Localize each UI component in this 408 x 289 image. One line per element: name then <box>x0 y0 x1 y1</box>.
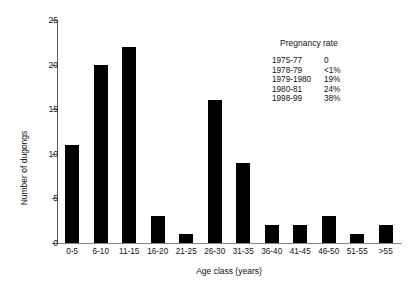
legend-row-years: 1978-79 <box>272 66 324 76</box>
legend-row: 1975-770 <box>272 56 402 66</box>
y-axis-tick-label: 25 <box>12 16 58 25</box>
y-axis-title-holder: Number of dugongs <box>10 60 24 180</box>
dugong-age-class-bar-chart: 0510152025 0-56-1011-1516-2021-2526-3031… <box>0 0 408 289</box>
bar <box>265 225 279 243</box>
x-axis-tick-label: >55 <box>369 247 403 257</box>
legend-row: 1980-8124% <box>272 85 402 95</box>
bar <box>94 65 108 243</box>
legend-row: 1979-198019% <box>272 75 402 85</box>
legend-row-group: 1975-7701978-79<1%1979-198019%1980-8124%… <box>272 56 402 104</box>
bar <box>208 100 222 243</box>
legend-row-rate: 0 <box>324 56 402 66</box>
bar <box>122 47 136 243</box>
x-axis-title: Age class (years) <box>58 266 400 276</box>
legend-title: Pregnancy rate <box>280 38 402 49</box>
bar <box>293 225 307 243</box>
x-axis-tick-label-group: 0-56-1011-1516-2021-2526-3031-3536-4041-… <box>58 247 400 261</box>
bar <box>322 216 336 243</box>
bar <box>151 216 165 243</box>
legend-row-rate: 24% <box>324 85 402 95</box>
legend-row-years: 1998-99 <box>272 94 324 104</box>
legend-row: 1998-9938% <box>272 94 402 104</box>
bar <box>65 145 79 243</box>
legend-row-rate: 38% <box>324 94 402 104</box>
legend-row: 1978-79<1% <box>272 66 402 76</box>
pregnancy-rate-legend: Pregnancy rate 1975-7701978-79<1%1979-19… <box>272 38 402 104</box>
bar <box>236 163 250 243</box>
legend-row-years: 1975-77 <box>272 56 324 66</box>
bar <box>179 234 193 243</box>
bar <box>350 234 364 243</box>
legend-row-rate: 19% <box>324 75 402 85</box>
bar <box>379 225 393 243</box>
legend-row-rate: <1% <box>324 66 402 76</box>
legend-row-years: 1980-81 <box>272 85 324 95</box>
legend-row-years: 1979-1980 <box>272 75 324 85</box>
y-axis-title: Number of dugongs <box>19 108 29 228</box>
x-axis-line <box>57 243 402 244</box>
y-axis-tick-label: 0 <box>12 239 58 248</box>
